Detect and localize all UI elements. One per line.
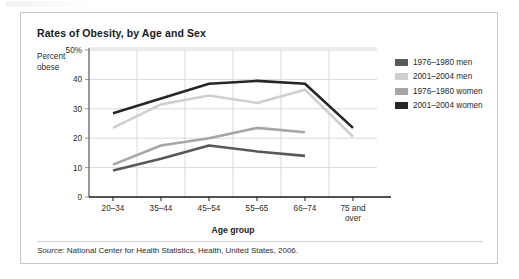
y-axis-tick-label: 20 [73,134,83,143]
cropped-artifact [6,1,92,7]
legend-label: 2001–2004 men [413,72,472,81]
page-top-strip [0,0,519,11]
y-axis-tick-label: 40 [73,75,83,84]
y-axis-tick-label: 30 [73,105,83,114]
chart-canvas: 01020304050%20–3435–4445–5455–6566–7475 … [21,13,499,265]
source-text: National Center for Health Statistics, H… [67,246,298,255]
x-axis-tick-label: 35–44 [150,204,173,213]
line-chart-plot: 01020304050%20–3435–4445–5455–6566–7475 … [21,13,499,265]
x-axis-tick-label: 66–74 [294,204,317,213]
x-axis-tick-label: 55–65 [246,204,269,213]
figure-panel: Rates of Obesity, by Age and Sex Percent… [20,12,498,264]
legend-swatch-icon [395,88,408,95]
y-axis-tick-label: 50% [66,46,82,55]
y-axis-tick-label: 10 [73,164,83,173]
x-axis-tick-label: 75 and [340,204,365,213]
legend-item[interactable]: 2001–2004 women [395,99,495,114]
x-axis-tick-label: 45–54 [198,204,221,213]
legend-label: 1976–1980 men [413,58,472,67]
legend-label: 2001–2004 women [413,101,483,110]
y-axis-tick-label: 0 [77,193,82,202]
legend-swatch-icon [395,59,408,66]
divider [37,241,483,242]
legend-swatch-icon [395,102,408,109]
legend-item[interactable]: 1976–1980 men [395,55,495,70]
source-label: Source: [37,246,65,255]
legend-swatch-icon [395,73,408,80]
chart-legend: 1976–1980 men2001–2004 men1976–1980 wome… [395,55,495,113]
legend-label: 1976–1980 women [413,87,483,96]
data-series-line [113,146,305,171]
source-note: Source: National Center for Health Stati… [37,246,298,255]
x-axis-tick-label: 20–34 [102,204,125,213]
x-axis-tick-label: over [345,214,361,223]
x-axis-title: Age group [212,225,255,235]
legend-item[interactable]: 1976–1980 women [395,84,495,99]
legend-item[interactable]: 2001–2004 men [395,70,495,85]
